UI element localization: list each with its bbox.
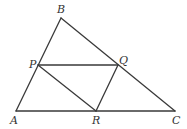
label-b: B <box>56 3 65 16</box>
label-p: P <box>28 58 37 71</box>
label-c: C <box>172 114 181 127</box>
label-a: A <box>9 114 18 127</box>
label-q: Q <box>119 54 128 67</box>
segment-qr <box>96 65 118 111</box>
segment-pr <box>38 65 96 111</box>
label-r: R <box>91 114 100 127</box>
triangle-diagram: A B C P Q R <box>0 0 187 129</box>
